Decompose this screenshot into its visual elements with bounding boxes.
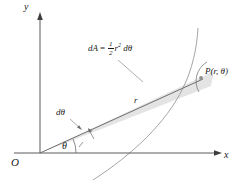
formula-denominator: 2 — [108, 50, 114, 57]
polar-area-diagram: y x O θ dθ r P(r, θ) dA=12r2 dθ — [0, 0, 236, 187]
theta-arc-tick — [79, 142, 83, 147]
y-axis-arrowhead-icon — [37, 12, 43, 20]
origin-label: O — [11, 157, 19, 168]
area-element-formula: dA=12r2 dθ — [88, 41, 132, 57]
y-axis-label: y — [24, 2, 28, 12]
x-axis-arrowhead-icon — [214, 150, 222, 156]
radius-label: r — [134, 96, 138, 105]
formula-equals: = — [98, 43, 107, 53]
formula-leader-line — [118, 60, 143, 82]
formula-differential: dθ — [123, 43, 132, 53]
point-p-marker — [199, 76, 203, 80]
d-theta-label: dθ — [56, 108, 65, 117]
point-p-label: P(r, θ) — [205, 67, 228, 76]
formula-fraction: 12 — [108, 41, 114, 57]
theta-angle-label: θ — [62, 141, 67, 151]
formula-numerator: 1 — [108, 41, 114, 48]
theta-angle-arc — [73, 139, 76, 153]
x-axis-label: x — [224, 150, 228, 160]
formula-lhs: dA — [88, 43, 98, 53]
diagram-canvas — [0, 0, 236, 187]
formula-exponent: 2 — [118, 42, 121, 48]
